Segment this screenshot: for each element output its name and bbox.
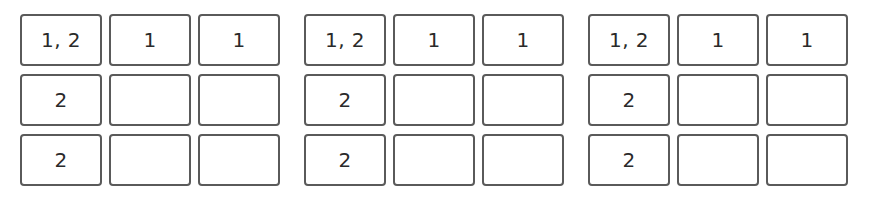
grid-2-cell-r1c2: 1 (393, 14, 475, 66)
grid-1-cell-r2c1: 2 (20, 74, 102, 126)
grid-3-cell-r2c1: 2 (588, 74, 670, 126)
grid-1-cell-r3c2 (109, 134, 191, 186)
grid-1: 1, 2 1 1 2 2 (20, 14, 280, 186)
grid-1-cell-r3c3 (198, 134, 280, 186)
grid-2-cell-r2c3 (482, 74, 564, 126)
grid-3-cell-r3c1: 2 (588, 134, 670, 186)
grid-1-cell-r2c2 (109, 74, 191, 126)
grid-2-cell-r2c1: 2 (304, 74, 386, 126)
grid-3-cell-r1c1: 1, 2 (588, 14, 670, 66)
grid-1-cell-r1c3: 1 (198, 14, 280, 66)
grid-2-cell-r3c3 (482, 134, 564, 186)
grid-1-cell-r3c1: 2 (20, 134, 102, 186)
grid-3-cell-r2c2 (677, 74, 759, 126)
grid-3-cell-r1c3: 1 (766, 14, 848, 66)
grid-3: 1, 2 1 1 2 2 (588, 14, 848, 186)
grid-1-cell-r1c2: 1 (109, 14, 191, 66)
grid-3-cell-r2c3 (766, 74, 848, 126)
grid-2-cell-r1c1: 1, 2 (304, 14, 386, 66)
grid-3-cell-r3c2 (677, 134, 759, 186)
grid-1-cell-r2c3 (198, 74, 280, 126)
grid-1-cell-r1c1: 1, 2 (20, 14, 102, 66)
grid-3-cell-r1c2: 1 (677, 14, 759, 66)
grid-3-cell-r3c3 (766, 134, 848, 186)
grid-2-cell-r1c3: 1 (482, 14, 564, 66)
grid-2: 1, 2 1 1 2 2 (304, 14, 564, 186)
grid-2-cell-r3c2 (393, 134, 475, 186)
grid-2-cell-r3c1: 2 (304, 134, 386, 186)
grid-2-cell-r2c2 (393, 74, 475, 126)
